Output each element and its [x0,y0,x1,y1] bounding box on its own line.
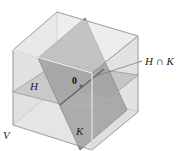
subspace-diagram [0,0,181,151]
label-intersection: H ∩ K [145,56,174,67]
label-space-v: V [3,130,10,141]
label-plane-h: H [30,81,38,92]
label-plane-k: K [76,126,83,137]
label-origin: 0 [72,76,77,86]
